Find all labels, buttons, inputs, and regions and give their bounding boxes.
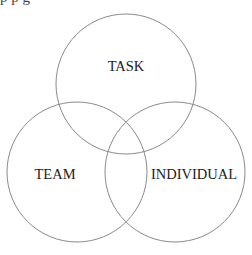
venn-diagram: TASK TEAM INDIVIDUAL (0, 0, 252, 255)
task-label: TASK (108, 58, 145, 74)
team-circle (7, 102, 147, 242)
team-label: TEAM (34, 166, 75, 182)
individual-label: INDIVIDUAL (151, 166, 237, 182)
task-circle (56, 14, 196, 154)
